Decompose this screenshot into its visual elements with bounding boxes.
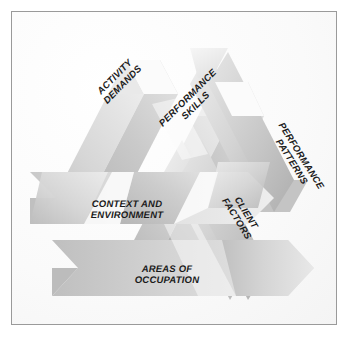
label-context-and-environment: CONTEXT AND ENVIRONMENT bbox=[67, 199, 187, 221]
figure-root: ACTIVITY DEMANDS PERFORMANCE SKILLS PERF… bbox=[0, 0, 349, 339]
diagram-plate-frame: ACTIVITY DEMANDS PERFORMANCE SKILLS PERF… bbox=[11, 11, 337, 325]
label-areas-of-occupation: AREAS OF OCCUPATION bbox=[107, 264, 227, 286]
